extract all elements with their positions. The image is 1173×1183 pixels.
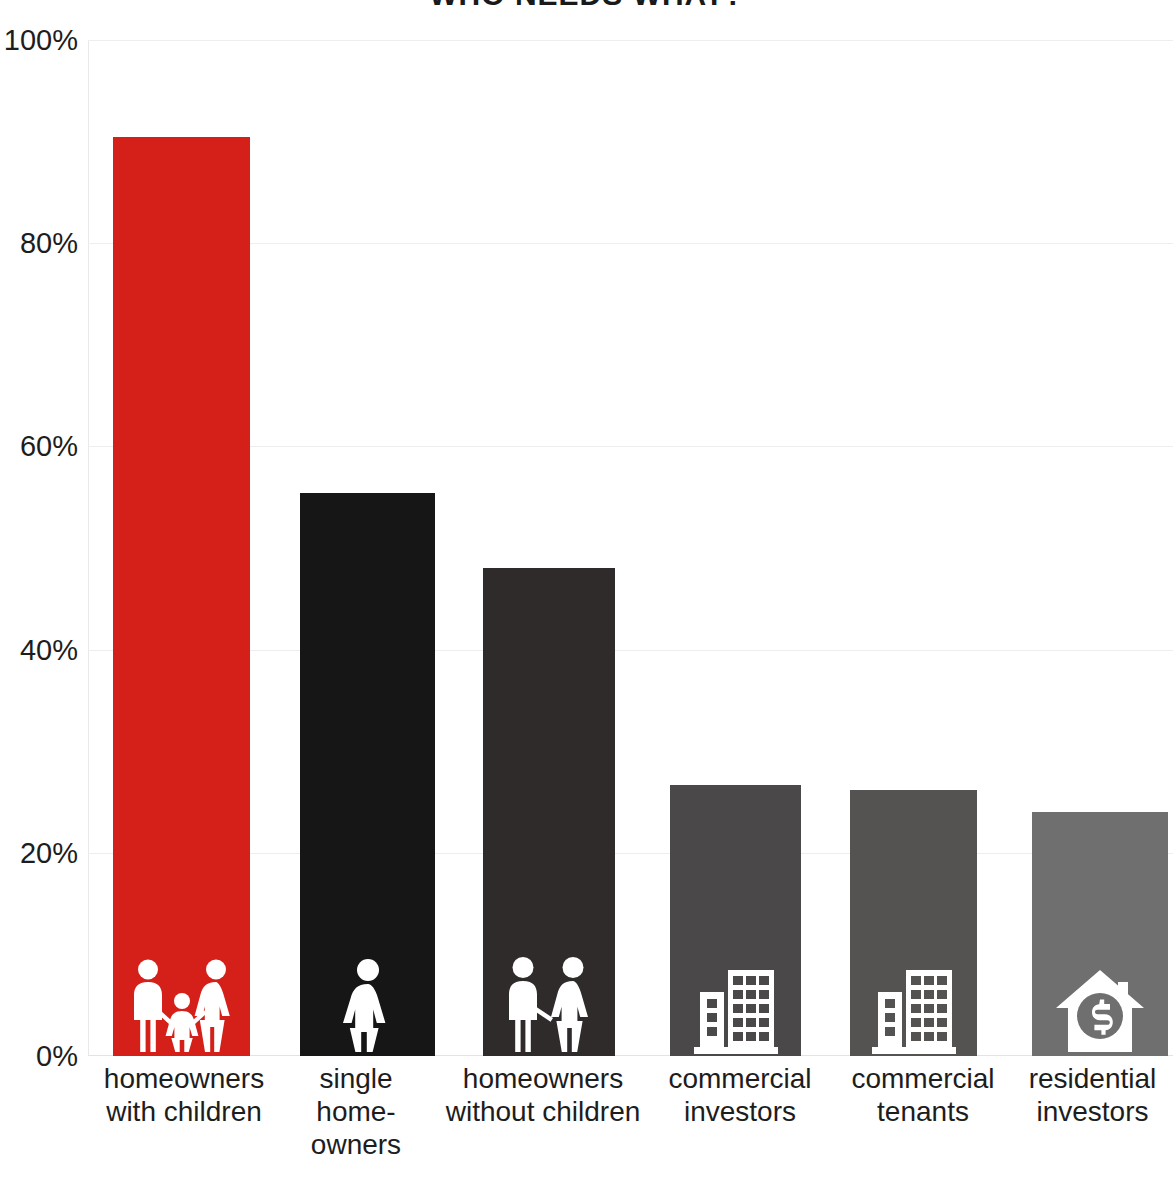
y-axis-tick-100: 100%: [0, 24, 78, 57]
bar-single-homeowners[interactable]: [300, 493, 435, 1056]
y-axis-tick-20: 20%: [0, 836, 78, 869]
bar-homeowners-without-children[interactable]: [483, 568, 615, 1056]
y-axis-tick-40: 40%: [0, 633, 78, 666]
bar-residential-investors[interactable]: [1032, 812, 1168, 1056]
x-axis-label-homeowners-without-children: homeowners without children: [432, 1063, 654, 1129]
bar-homeowners-with-children[interactable]: [113, 137, 250, 1056]
x-axis-label-single-homeowners: single home- owners: [288, 1063, 424, 1161]
house-dollar-icon: [1032, 950, 1168, 1054]
gridline-80: [88, 243, 1173, 244]
gridline-20: [88, 853, 1173, 854]
gridline-100: [88, 40, 1173, 41]
bar-chart: WHO NEEDS WHAT? 0% 20% 40% 60% 80% 100%: [0, 0, 1173, 1183]
family-man-child-woman-icon: [113, 950, 250, 1054]
office-buildings-icon: [670, 950, 801, 1054]
y-axis-tick-60: 60%: [0, 430, 78, 463]
x-axis-label-commercial-investors: commercial investors: [656, 1063, 824, 1129]
office-buildings-icon: [850, 950, 977, 1054]
single-woman-icon: [300, 950, 435, 1054]
x-axis-label-residential-investors: residential investors: [1012, 1063, 1173, 1129]
chart-title: WHO NEEDS WHAT?: [0, 0, 1173, 12]
gridline-60: [88, 446, 1173, 447]
gridline-0: [88, 1055, 1173, 1056]
y-axis-line: [88, 40, 89, 1056]
couple-man-woman-icon: [483, 950, 615, 1054]
y-axis-tick-80: 80%: [0, 227, 78, 260]
bar-commercial-investors[interactable]: [670, 785, 801, 1056]
bar-fill: [113, 137, 250, 1056]
plot-area: [88, 40, 1173, 1056]
gridline-40: [88, 650, 1173, 651]
bar-commercial-tenants[interactable]: [850, 790, 977, 1056]
x-axis-label-commercial-tenants: commercial tenants: [834, 1063, 1012, 1129]
x-axis-label-homeowners-with-children: homeowners with children: [88, 1063, 280, 1129]
y-axis-tick-0: 0%: [0, 1040, 78, 1073]
